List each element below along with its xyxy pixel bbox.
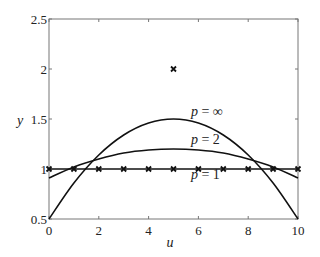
x-marker [171, 67, 176, 72]
x-tick-label: 4 [145, 223, 152, 238]
y-tick-label: 0.5 [31, 212, 47, 227]
y-axis-label: y [15, 113, 24, 128]
x-tick-label: 2 [96, 223, 103, 238]
curve-label: p = 1 [190, 167, 220, 182]
y-tick-label: 1 [41, 162, 48, 177]
y-tick-label: 2 [41, 62, 48, 77]
y-tick-label: 1.5 [31, 112, 47, 127]
curve-label: p = 2 [190, 132, 220, 147]
x-tick-label: 6 [195, 223, 202, 238]
x-axis-label: u [167, 235, 174, 250]
curve-label: p = ∞ [190, 104, 223, 119]
tick-labels: 02468100.511.522.5 [31, 12, 305, 238]
x-tick-label: 10 [292, 223, 305, 238]
y-tick-label: 2.5 [31, 12, 47, 27]
series-line [49, 149, 298, 178]
x-tick-label: 8 [245, 223, 252, 238]
curve-annotations: p = ∞p = 2p = 1 [190, 104, 223, 182]
line-chart: 02468100.511.522.5 p = ∞p = 2p = 1 u y [0, 0, 320, 257]
